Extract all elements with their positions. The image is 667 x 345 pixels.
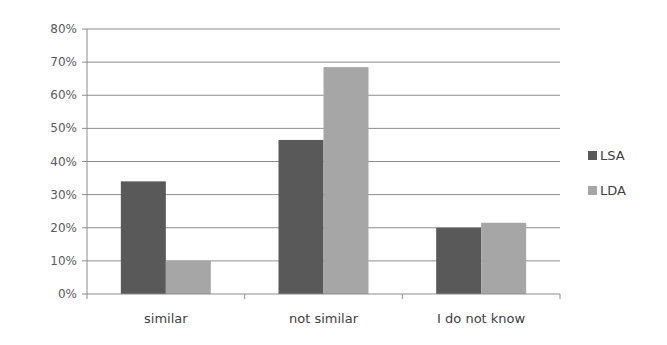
x-category-label: I do not know: [437, 311, 525, 326]
bar-chart: 0%10%20%30%40%50%60%70%80% similarnot si…: [0, 0, 667, 345]
legend-label-lsa: LSA: [600, 148, 625, 163]
y-tick-label: 30%: [50, 188, 77, 202]
bar-lsa-i-do-not-know: [436, 228, 481, 294]
y-tick-label: 0%: [58, 287, 77, 301]
y-tick-label: 70%: [50, 55, 77, 69]
bar-lda-not-similar: [324, 67, 369, 294]
bar-lda-similar: [166, 261, 211, 294]
y-tick-label: 50%: [50, 121, 77, 135]
legend: LSALDA: [588, 148, 626, 198]
bar-lsa-not-similar: [279, 140, 324, 294]
x-axis-category-labels: similarnot similarI do not know: [144, 311, 526, 326]
legend-swatch-lda: [588, 186, 597, 195]
bar-series: [121, 67, 526, 294]
x-category-label: similar: [144, 311, 188, 326]
x-category-label: not similar: [289, 311, 359, 326]
legend-swatch-lsa: [588, 151, 597, 160]
y-tick-label: 20%: [50, 221, 77, 235]
legend-label-lda: LDA: [600, 183, 626, 198]
y-tick-label: 60%: [50, 88, 77, 102]
y-tick-label: 40%: [50, 155, 77, 169]
y-tick-label: 80%: [50, 22, 77, 36]
y-axis-tick-labels: 0%10%20%30%40%50%60%70%80%: [50, 22, 77, 301]
bar-lsa-similar: [121, 181, 166, 294]
bar-lda-i-do-not-know: [481, 223, 526, 294]
y-tick-label: 10%: [50, 254, 77, 268]
